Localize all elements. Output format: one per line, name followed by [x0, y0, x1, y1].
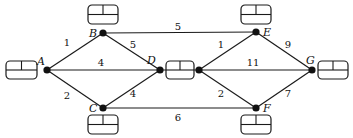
node-e [252, 28, 259, 35]
edge-b-e [103, 32, 256, 33]
node-box-a [6, 61, 37, 79]
edge-weight-label: 5 [130, 39, 136, 50]
edge-weight-label: 1 [218, 39, 224, 50]
node-d2 [195, 66, 202, 73]
node-label: A [36, 55, 45, 68]
node-label: E [262, 26, 271, 39]
edge-weight-label: 9 [285, 39, 291, 50]
node-label: F [262, 102, 271, 115]
node-label: D [146, 54, 156, 67]
network-diagram: 1425456111297ABCDEFG [0, 0, 353, 138]
node-label: B [88, 27, 97, 40]
node-label: C [89, 102, 98, 115]
edge-weight-label: 11 [247, 57, 260, 68]
edge-weight-label: 4 [130, 88, 136, 99]
node-f [252, 104, 259, 111]
edge-weight-label: 2 [218, 88, 224, 99]
edge-weight-label: 2 [64, 90, 70, 101]
edge-weight-label: 5 [175, 21, 181, 32]
node-box-b [88, 5, 118, 24]
edge-weight-label: 7 [285, 88, 291, 99]
edge-d2-f [199, 70, 256, 108]
node-box-f [241, 115, 271, 134]
edge-weight-label: 6 [175, 112, 181, 123]
node-g [308, 66, 315, 73]
edge-weight-label: 1 [64, 37, 70, 48]
node-d [156, 66, 163, 73]
node-box-g [318, 61, 348, 79]
node-box-c [88, 115, 118, 134]
node-label: G [306, 54, 315, 67]
edge-weight-label: 4 [98, 57, 104, 68]
node-c [99, 104, 106, 111]
node-box-d [166, 61, 194, 79]
node-b [99, 29, 106, 36]
node-box-e [241, 5, 271, 24]
